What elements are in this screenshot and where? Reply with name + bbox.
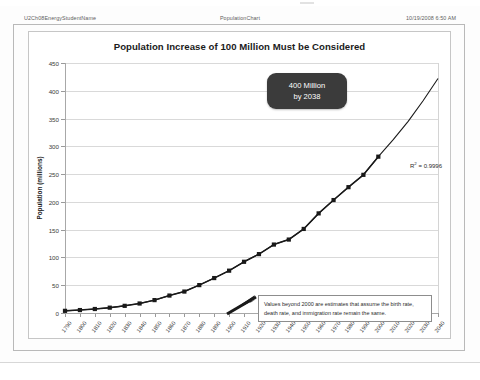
chart-note-box: Values beyond 2000 are estimates that as… bbox=[258, 295, 432, 322]
x-axis-tick-label: 1880 bbox=[195, 320, 207, 334]
x-axis-tick-label: 1830 bbox=[120, 320, 132, 334]
x-axis-tick-label: 1900 bbox=[224, 320, 236, 334]
x-axis-tick-label: 1840 bbox=[135, 320, 147, 334]
x-axis-tick-label: 1820 bbox=[105, 320, 117, 334]
plot-area: 050100150200250300350400450 179018001810… bbox=[65, 63, 438, 313]
header-timestamp: 10/19/2008 6:50 AM bbox=[406, 15, 456, 21]
callout-line-2: by 2038 bbox=[293, 91, 320, 102]
x-axis-tick-label: 1870 bbox=[180, 320, 192, 334]
y-axis-tick-label: 50 bbox=[52, 282, 59, 289]
x-axis-tick-label: 1860 bbox=[165, 320, 177, 334]
scan-edge-top bbox=[0, 0, 480, 6]
y-axis-tick-label: 0 bbox=[56, 310, 59, 317]
x-axis-tick-label: 1910 bbox=[239, 320, 251, 334]
chart-container: Population Increase of 100 Million Must … bbox=[28, 31, 451, 339]
callout-line-1: 400 Million bbox=[289, 80, 325, 91]
y-axis-tick-label: 450 bbox=[49, 60, 59, 67]
x-axis-tick-label: 1800 bbox=[75, 320, 87, 334]
x-axis-tick-label: 1850 bbox=[150, 320, 162, 334]
y-axis-title: Population (millions) bbox=[36, 156, 43, 219]
y-axis-tick-label: 250 bbox=[49, 171, 59, 178]
trendline bbox=[65, 79, 438, 311]
y-axis-tick-label: 400 bbox=[49, 87, 59, 94]
data-series-layer bbox=[65, 63, 438, 313]
y-axis-tick-label: 350 bbox=[49, 115, 59, 122]
scan-artifact bbox=[300, 2, 314, 4]
r2-value: = 0.9996 bbox=[417, 163, 442, 169]
scanned-page: U2Ch08EnergyStudentName PopulationChart … bbox=[0, 0, 480, 380]
x-axis-tick-label: 1790 bbox=[60, 320, 72, 334]
y-axis-tick-label: 200 bbox=[49, 198, 59, 205]
y-axis-tick-label: 100 bbox=[49, 254, 59, 261]
note-pointer-icon bbox=[225, 294, 259, 316]
x-axis-tick bbox=[438, 313, 439, 317]
callout-400-million: 400 Million by 2038 bbox=[267, 73, 347, 109]
plot-right-border bbox=[438, 63, 439, 313]
x-axis-tick-label: 1890 bbox=[210, 320, 222, 334]
x-axis-tick-label: 2040 bbox=[433, 320, 445, 334]
header-center-text: PopulationChart bbox=[220, 15, 260, 21]
x-axis-tick-label: 1810 bbox=[90, 320, 102, 334]
r-squared-label: R2 = 0.9996 bbox=[410, 161, 442, 169]
y-axis-tick-label: 150 bbox=[49, 226, 59, 233]
chart-title: Population Increase of 100 Million Must … bbox=[29, 41, 450, 52]
scan-edge-bottom bbox=[0, 362, 480, 380]
series-line bbox=[65, 157, 378, 311]
header-left-text: U2Ch08EnergyStudentName bbox=[24, 15, 96, 21]
y-axis-tick-label: 300 bbox=[49, 143, 59, 150]
